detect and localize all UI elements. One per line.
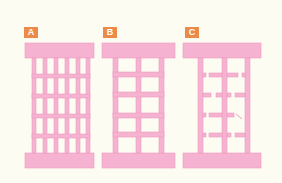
top-beam-b — [102, 43, 175, 58]
frame-a — [25, 43, 94, 168]
bottom-beam-c — [183, 153, 261, 168]
bottom-beam-b — [102, 153, 175, 168]
diagram-canvas: A B C — [0, 0, 282, 183]
frames-illustration — [0, 0, 282, 183]
top-beam-c — [183, 43, 261, 58]
bottom-beam-a — [25, 153, 94, 168]
frame-c — [183, 43, 261, 168]
top-beam-a — [25, 43, 94, 58]
frame-b — [102, 43, 175, 168]
